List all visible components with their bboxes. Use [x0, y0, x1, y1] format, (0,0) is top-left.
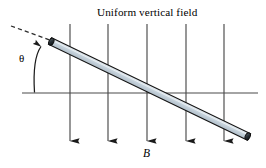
- theta-angle-arrow: [34, 47, 41, 93]
- figure-title: Uniform vertical field: [97, 7, 197, 18]
- figure-canvas: [0, 0, 266, 168]
- magnetic-field-label: B: [143, 148, 150, 160]
- conducting-rod: [48, 37, 252, 140]
- rod-highlight: [53, 41, 247, 134]
- dashed-extension-line: [11, 26, 54, 42]
- theta-angle-label: θ: [19, 53, 24, 64]
- field-line-group: [70, 24, 224, 141]
- physics-figure-uniform-vertical-field: Uniform vertical field θ B: [0, 0, 266, 168]
